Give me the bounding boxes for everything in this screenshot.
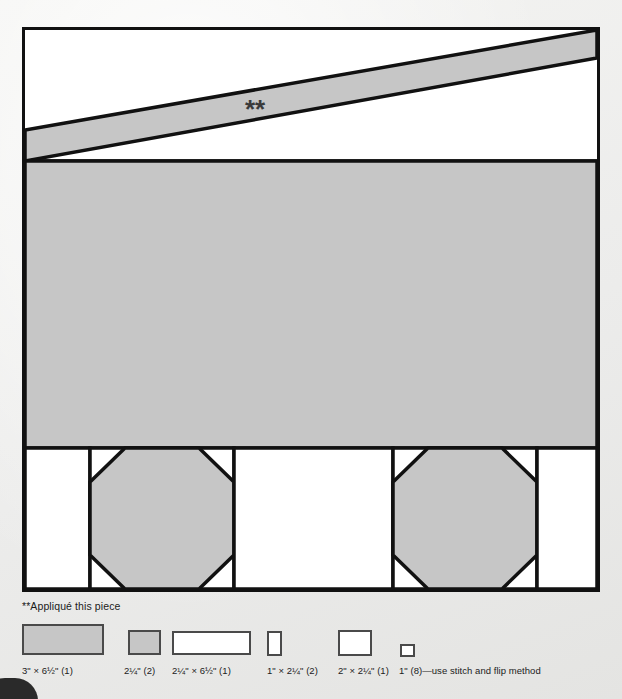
legend-swatch-4 [338,630,372,656]
bottom-cell-white-center [234,448,393,589]
bottom-cell-white-right [537,448,597,589]
legend-swatch-5 [400,644,415,657]
legend-swatch-1 [128,630,161,655]
legend-swatch-3 [267,631,282,656]
legend-label-0: 3" × 6½" (1) [22,665,73,676]
bottom-cell-white-left [25,448,90,589]
legend-swatch-0 [22,624,104,655]
octagon-right-shape [393,448,537,589]
octagon-block-right [393,448,537,589]
octagon-block-left [90,448,234,589]
applique-note: **Appliqué this piece [22,600,120,612]
legend-swatch-2 [172,631,251,655]
top-section [25,30,597,161]
center-section [25,161,597,448]
legend-label-4: 2" × 2¼" (1) [338,665,389,676]
bottom-row [25,448,597,589]
legend-label-1: 2¼" (2) [124,665,155,676]
legend-label-3: 1" × 2¼" (2) [267,665,318,676]
applique-marker: ** [245,94,266,124]
diagram-canvas: ** [25,30,597,589]
legend-label-2: 2¼" × 6½" (1) [172,665,231,676]
legend-label-5: 1" (8)—use stitch and flip method [399,665,541,676]
octagon-left-shape [90,448,234,589]
quilt-pattern-diagram: ** [22,27,600,592]
center-gray-rectangle [25,161,597,448]
